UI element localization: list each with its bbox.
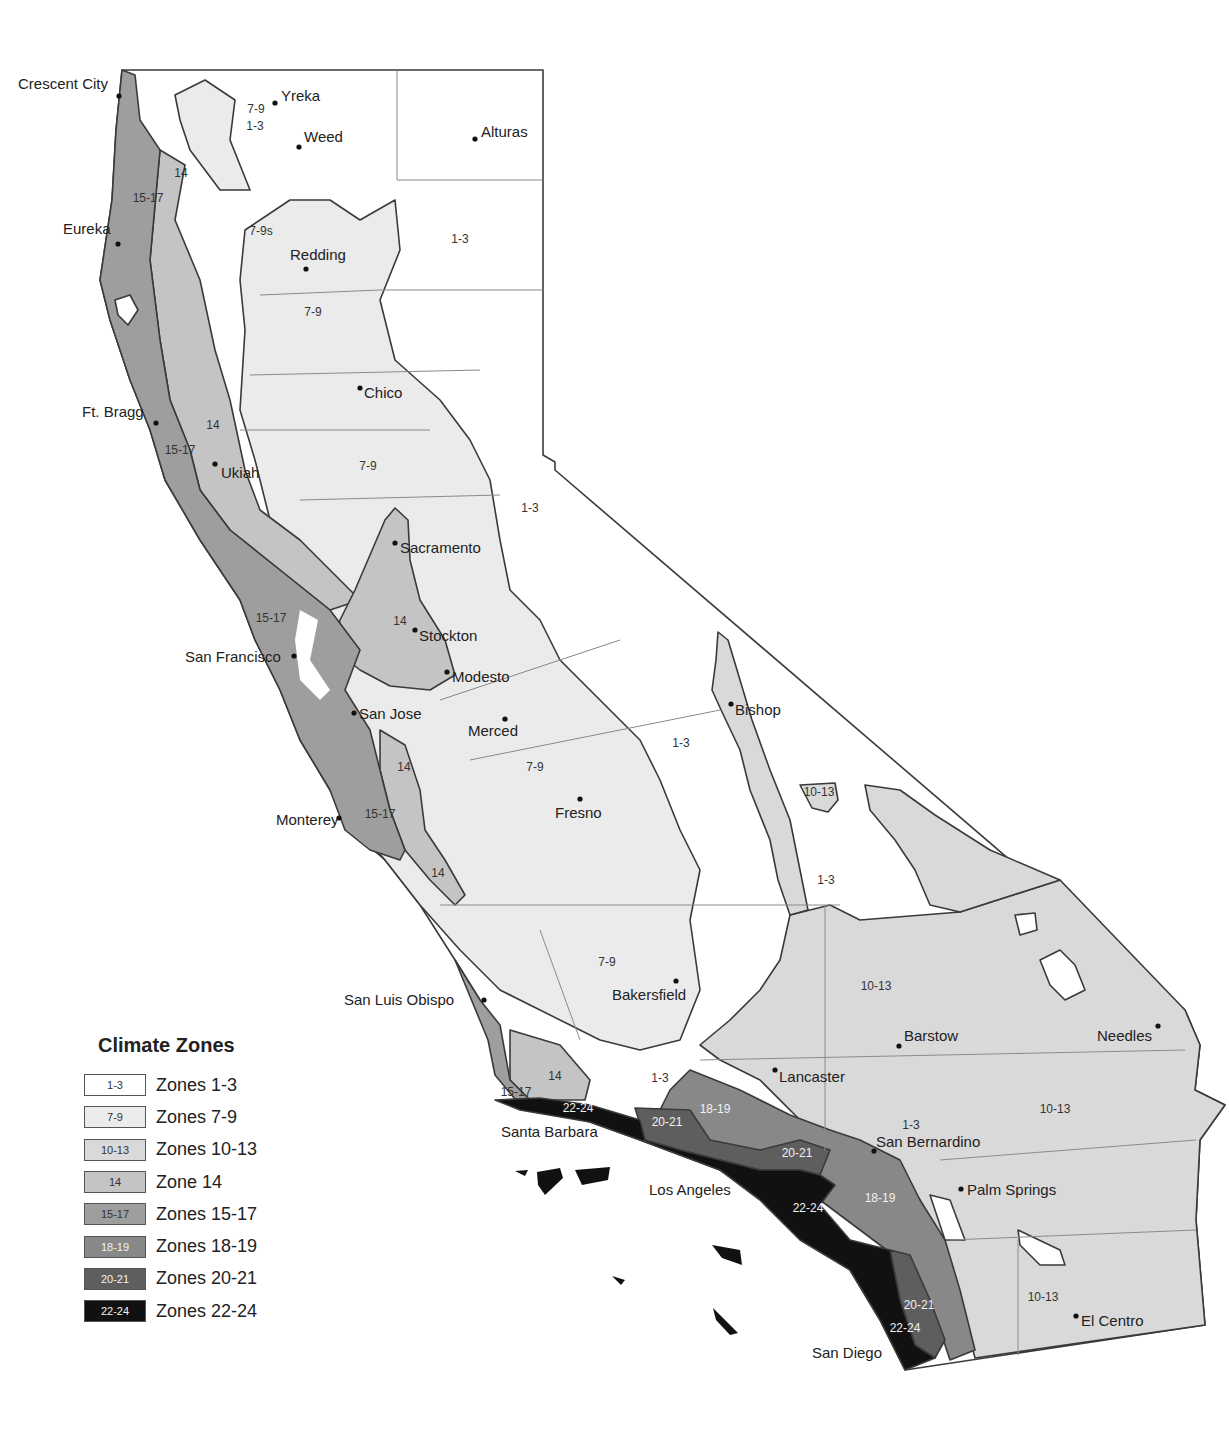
zone-label: 14	[397, 760, 411, 774]
legend-swatch: 14	[84, 1171, 146, 1193]
zone-label: 20-21	[782, 1146, 813, 1160]
city-label: Bishop	[735, 701, 781, 718]
legend-swatch: 1-3	[84, 1074, 146, 1096]
legend-label: Zones 15-17	[156, 1204, 257, 1225]
zone-label: 10-13	[861, 979, 892, 993]
city-label: Modesto	[452, 668, 510, 685]
legend-swatch: 10-13	[84, 1139, 146, 1161]
city-label: Eureka	[63, 220, 111, 237]
channel-island	[612, 1276, 625, 1285]
city-label: Merced	[468, 722, 518, 739]
city-label: Sacramento	[400, 539, 481, 556]
city-label: Needles	[1097, 1027, 1152, 1044]
zone-label: 15-17	[365, 807, 396, 821]
zone-label: 14	[393, 614, 407, 628]
city-dot-icon	[673, 978, 678, 983]
zone-label: 14	[174, 166, 188, 180]
zone-label: 20-21	[904, 1298, 935, 1312]
city-dot-icon	[958, 1186, 963, 1191]
legend-swatch: 7-9	[84, 1106, 146, 1128]
city-dot-icon	[153, 420, 158, 425]
city-dot-icon	[212, 461, 217, 466]
city-label: Ft. Bragg	[82, 403, 144, 420]
city-label: San Jose	[359, 705, 422, 722]
city-label: Lancaster	[779, 1068, 845, 1085]
channel-island	[515, 1170, 528, 1176]
city-dot-icon	[272, 100, 277, 105]
zone-label: 7-9	[359, 459, 377, 473]
zone-label: 10-13	[804, 785, 835, 799]
zone-label: 14	[548, 1069, 562, 1083]
legend-rows: 1-3Zones 1-37-9Zones 7-910-13Zones 10-13…	[84, 1069, 304, 1327]
legend-label: Zones 7-9	[156, 1107, 237, 1128]
zone-label: 7-9	[304, 305, 322, 319]
zone-label: 7-9s	[249, 224, 272, 238]
legend-label: Zones 22-24	[156, 1301, 257, 1322]
zone-label: 20-21	[652, 1115, 683, 1129]
legend-item: 15-17Zones 15-17	[84, 1198, 304, 1230]
legend-item: 7-9Zones 7-9	[84, 1101, 304, 1133]
city-dot-icon	[1073, 1313, 1078, 1318]
zone-label: 22-24	[563, 1101, 594, 1115]
city-dot-icon	[444, 669, 449, 674]
city-dot-icon	[357, 385, 362, 390]
city-label: Palm Springs	[967, 1181, 1056, 1198]
city-label: Yreka	[281, 87, 321, 104]
zone-label: 15-17	[133, 191, 164, 205]
city-label: El Centro	[1081, 1312, 1144, 1329]
zone-label: 14	[206, 418, 220, 432]
legend-title: Climate Zones	[98, 1034, 304, 1057]
city-label: San Luis Obispo	[344, 991, 454, 1008]
legend-item: 10-13Zones 10-13	[84, 1134, 304, 1166]
zone-label: 1-3	[246, 119, 264, 133]
zone-label: 1-3	[817, 873, 835, 887]
zone-label: 1-3	[521, 501, 539, 515]
city-label: Alturas	[481, 123, 528, 140]
zone-label: 15-17	[256, 611, 287, 625]
city-dot-icon	[728, 701, 733, 706]
zone-label: 15-17	[165, 443, 196, 457]
city-dot-icon	[392, 540, 397, 545]
zone-label: 10-13	[1028, 1290, 1059, 1304]
legend-item: 14Zone 14	[84, 1166, 304, 1198]
legend-item: 22-24Zones 22-24	[84, 1295, 304, 1327]
city-dot-icon	[502, 716, 507, 721]
city-label: Weed	[304, 128, 343, 145]
zone-label: 1-3	[451, 232, 469, 246]
channel-island	[713, 1308, 738, 1335]
legend-swatch: 20-21	[84, 1268, 146, 1290]
legend-label: Zones 10-13	[156, 1139, 257, 1160]
legend-swatch: 18-19	[84, 1236, 146, 1258]
channel-island	[575, 1167, 610, 1185]
city-label: Chico	[364, 384, 402, 401]
city-dot-icon	[303, 266, 308, 271]
city-label: Santa Barbara	[501, 1123, 598, 1140]
city-dot-icon	[1155, 1023, 1160, 1028]
legend-swatch: 15-17	[84, 1203, 146, 1225]
city-dot-icon	[772, 1067, 777, 1072]
zone-label: 1-3	[672, 736, 690, 750]
zone-label: 14	[431, 866, 445, 880]
city-dot-icon	[896, 1043, 901, 1048]
zone-label: 1-3	[902, 1118, 920, 1132]
city-label: Stockton	[419, 627, 477, 644]
city-dot-icon	[577, 796, 582, 801]
channel-island	[712, 1245, 742, 1265]
legend-swatch: 22-24	[84, 1300, 146, 1322]
city-dot-icon	[116, 93, 121, 98]
legend-label: Zone 14	[156, 1172, 222, 1193]
legend: Climate Zones 1-3Zones 1-37-9Zones 7-910…	[84, 1034, 304, 1327]
zone-label: 1-3	[651, 1071, 669, 1085]
city-dot-icon	[291, 653, 296, 658]
legend-label: Zones 18-19	[156, 1236, 257, 1257]
city-label: Crescent City	[18, 75, 109, 92]
zone-label: 18-19	[865, 1191, 896, 1205]
zone-label: 18-19	[700, 1102, 731, 1116]
city-dot-icon	[412, 627, 417, 632]
city-label: Ukiah	[221, 464, 259, 481]
city-dot-icon	[115, 241, 120, 246]
zone-label: 7-9	[598, 955, 616, 969]
zone-label: 15-17	[501, 1085, 532, 1099]
city-label: Bakersfield	[612, 986, 686, 1003]
city-label: San Bernardino	[876, 1133, 980, 1150]
